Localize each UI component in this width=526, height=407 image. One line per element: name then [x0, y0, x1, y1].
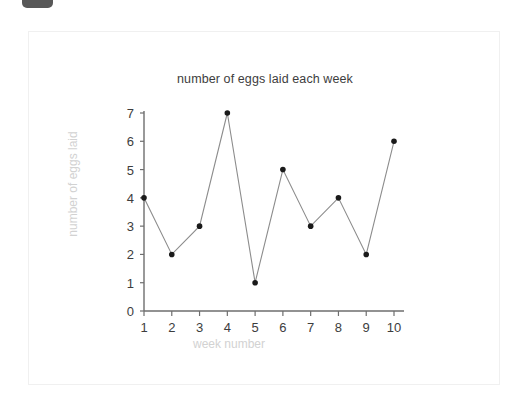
- axes: [144, 111, 404, 311]
- x-tick-label: 2: [159, 321, 185, 334]
- y-tick-label: 4: [112, 192, 134, 205]
- data-point: [391, 138, 397, 144]
- top-left-badge: [22, 0, 53, 8]
- data-point: [252, 280, 258, 286]
- x-tick-label: 4: [214, 321, 240, 334]
- data-point: [363, 252, 369, 258]
- data-point: [225, 110, 231, 116]
- x-tick-label: 5: [242, 321, 268, 334]
- data-markers: [141, 110, 397, 285]
- y-tick-label: 0: [112, 305, 134, 318]
- tick-marks: [140, 113, 394, 316]
- y-tick-label: 2: [112, 248, 134, 261]
- y-tick-label: 7: [112, 107, 134, 120]
- x-tick-label: 8: [325, 321, 351, 334]
- chart-card: number of eggs laid each week number of …: [28, 31, 500, 385]
- x-tick-label: 3: [187, 321, 213, 334]
- data-point: [280, 167, 286, 173]
- data-point: [141, 195, 147, 201]
- x-tick-label: 1: [131, 321, 157, 334]
- y-tick-label: 1: [112, 277, 134, 290]
- y-tick-label: 6: [112, 135, 134, 148]
- data-point: [308, 223, 314, 229]
- line-chart: number of eggs laid each week number of …: [29, 32, 501, 386]
- y-tick-label: 5: [112, 164, 134, 177]
- data-point: [169, 252, 175, 258]
- x-tick-label: 9: [353, 321, 379, 334]
- x-tick-label: 7: [298, 321, 324, 334]
- data-line: [144, 113, 394, 283]
- x-tick-label: 10: [381, 321, 407, 334]
- data-point: [336, 195, 342, 201]
- x-tick-label: 6: [270, 321, 296, 334]
- data-point: [197, 223, 203, 229]
- y-tick-label: 3: [112, 220, 134, 233]
